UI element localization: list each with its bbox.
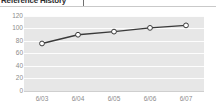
data-point-marker[interactable]: [148, 25, 153, 30]
x-tick-label: 6/03: [27, 95, 57, 103]
y-tick-label: 0: [2, 88, 23, 94]
data-point-marker[interactable]: [184, 23, 189, 28]
x-axis-baseline: [24, 91, 204, 92]
y-tick-label: 80: [2, 38, 23, 44]
data-point-marker[interactable]: [112, 29, 117, 34]
data-point-marker[interactable]: [40, 41, 45, 46]
x-tick-label: 6/06: [135, 95, 165, 103]
y-tick-label: 20: [2, 75, 23, 81]
x-tick-label: 6/05: [99, 95, 129, 103]
x-tick-label: 6/04: [63, 95, 93, 103]
series-overlay: [24, 16, 204, 91]
line-chart: 020406080100120 6/036/046/056/066/07: [0, 7, 216, 106]
y-tick-label: 40: [2, 63, 23, 69]
y-tick-label: 120: [2, 13, 23, 19]
y-tick-label: 60: [2, 50, 23, 56]
data-point-marker[interactable]: [76, 32, 81, 37]
chart-title-clipped: Reference History: [1, 0, 66, 5]
y-tick-label: 100: [2, 25, 23, 31]
x-tick-label: 6/07: [171, 95, 201, 103]
x-axis: 6/036/046/056/066/07: [24, 95, 204, 106]
y-axis: 020406080100120: [0, 7, 23, 106]
